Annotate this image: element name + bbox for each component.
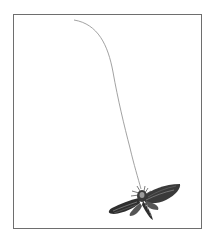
moth-illustration [0, 0, 211, 240]
moth-icon [109, 184, 180, 220]
thread-line [74, 20, 141, 189]
